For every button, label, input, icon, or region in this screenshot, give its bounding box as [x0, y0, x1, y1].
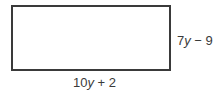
width-label: 10y + 2: [73, 75, 116, 90]
width-constant: 2: [109, 75, 116, 90]
rectangle-shape: [11, 5, 171, 71]
height-constant: 9: [206, 33, 213, 48]
width-operator: +: [94, 75, 109, 90]
height-operator: −: [191, 33, 206, 48]
width-coefficient: 10: [73, 75, 87, 90]
height-label: 7y − 9: [177, 33, 213, 48]
